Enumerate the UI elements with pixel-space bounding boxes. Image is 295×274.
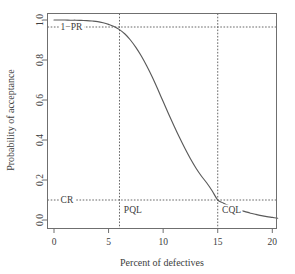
- y-tick-label-4: 0.8: [35, 54, 45, 66]
- x-axis-label: Percent of defectives: [120, 257, 204, 268]
- x-tick-label-0: 0: [52, 237, 57, 247]
- y-tick-label-5: 1.0: [35, 14, 45, 26]
- x-tick-label-2: 10: [158, 237, 168, 247]
- y-tick-label-3: 0.6: [35, 94, 45, 106]
- x-tick-label-4: 20: [268, 237, 278, 247]
- oc-curve-chart: 05101520 0.00.20.40.60.81.0 1−PRCRPQLCQL…: [0, 0, 295, 274]
- y-tick-label-2: 0.4: [35, 134, 45, 146]
- annotation-label-pql: PQL: [124, 205, 142, 215]
- annotation-label-cql: CQL: [222, 205, 241, 215]
- x-tick-label-3: 15: [213, 237, 223, 247]
- x-tick-label-1: 5: [106, 237, 111, 247]
- chart-canvas: 05101520 0.00.20.40.60.81.0 1−PRCRPQLCQL…: [0, 0, 295, 274]
- y-tick-label-1: 0.2: [35, 174, 45, 186]
- annotation-label-consumer-risk: CR: [61, 195, 74, 205]
- y-tick-label-0: 0.0: [35, 214, 45, 226]
- annotation-label-one-minus-pr: 1−PR: [61, 22, 83, 32]
- y-axis-label: Probability of acceptance: [5, 69, 16, 171]
